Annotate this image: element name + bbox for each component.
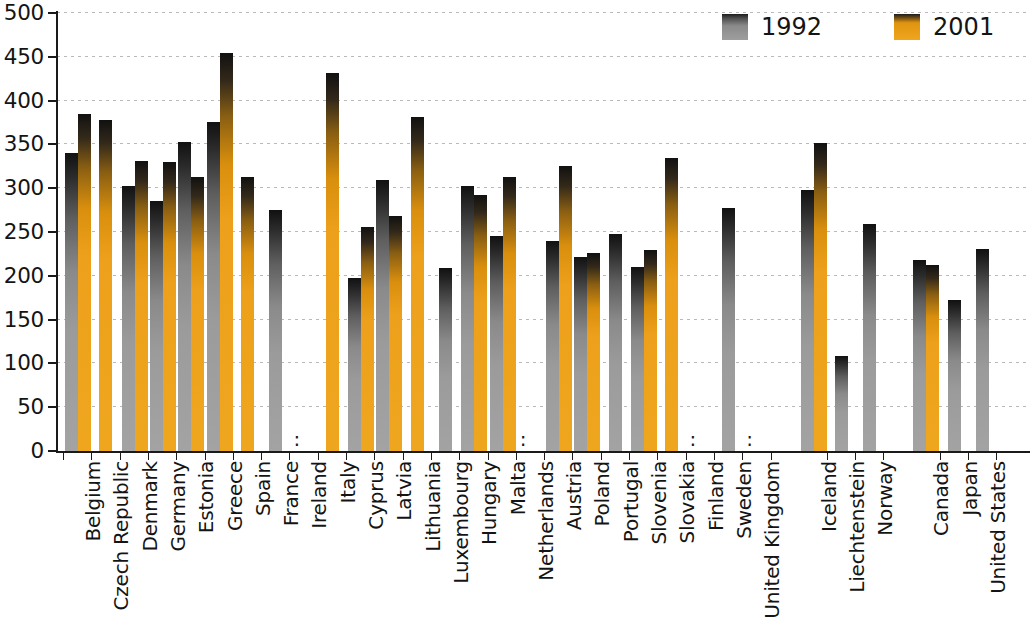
bar-1992[interactable] (722, 208, 735, 451)
bar-group (347, 13, 375, 451)
bar-1992[interactable] (546, 241, 559, 451)
bar-group (715, 13, 743, 451)
x-axis-label: Hungary (479, 461, 499, 545)
x-tick (261, 451, 262, 460)
bar-group (602, 13, 630, 451)
bar-1992[interactable] (269, 210, 282, 451)
x-axis-label: Estonia (196, 461, 216, 533)
bar-2001[interactable] (220, 53, 233, 451)
bar-1992[interactable] (948, 300, 961, 451)
bar-1992[interactable] (631, 267, 644, 451)
bar-2001[interactable] (587, 253, 600, 451)
bar-1992[interactable] (913, 260, 926, 451)
bar-group (856, 13, 884, 451)
x-tick (120, 451, 121, 460)
bar-2001[interactable] (665, 158, 678, 451)
x-axis-label: Slovenia (649, 461, 669, 545)
x-tick (403, 451, 404, 460)
x-axis-label: Ireland (309, 461, 329, 529)
y-tick-250 (48, 231, 57, 233)
x-axis-label: Liechtenstein (847, 461, 867, 593)
bar-2001[interactable] (411, 117, 424, 451)
x-axis-label: Germany (168, 461, 188, 552)
x-axis-label: Lithuania (423, 461, 443, 552)
bar-2001[interactable] (326, 73, 339, 451)
bar-2001[interactable] (814, 143, 827, 451)
bar-1992[interactable] (65, 153, 78, 451)
no-data-marker: : (520, 429, 527, 449)
plot-area: :::: (57, 13, 1030, 451)
x-axis-label: Poland (592, 461, 612, 527)
bar-1992[interactable] (574, 257, 587, 451)
legend-item-2001[interactable]: 2001 (894, 14, 994, 40)
x-tick (205, 451, 206, 460)
bar-group (262, 13, 290, 451)
bar-group (432, 13, 460, 451)
bar-group (969, 13, 997, 451)
x-tick (346, 451, 347, 460)
legend: 1992 2001 (722, 14, 994, 40)
bar-2001[interactable] (163, 162, 176, 451)
bar-1992[interactable] (439, 268, 452, 451)
legend-label-1992: 1992 (761, 15, 822, 39)
bar-group (375, 13, 403, 451)
x-axis-label: Italy (338, 461, 358, 503)
legend-swatch-1992-icon (722, 14, 748, 40)
y-tick-100 (48, 362, 57, 364)
x-tick (572, 451, 573, 460)
bar-2001[interactable] (926, 265, 939, 451)
x-tick (601, 451, 602, 460)
x-tick (742, 451, 743, 460)
bar-chart: :::: 050100150200250300350400450500 Belg… (0, 0, 1034, 630)
bar-2001[interactable] (361, 227, 374, 451)
x-axis-label: Cyprus (366, 461, 386, 530)
bar-1992[interactable] (609, 234, 622, 451)
bar-2001[interactable] (99, 120, 112, 451)
y-tick-label-100: 100 (0, 352, 44, 374)
bar-1992[interactable] (150, 201, 163, 451)
bar-2001[interactable] (644, 250, 657, 451)
bar-2001[interactable] (503, 177, 516, 451)
bar-1992[interactable] (863, 224, 876, 451)
x-tick (374, 451, 375, 460)
y-tick-label-350: 350 (0, 133, 44, 155)
y-tick-300 (48, 187, 57, 189)
bar-2001[interactable] (389, 216, 402, 451)
bar-2001[interactable] (474, 195, 487, 451)
bar-1992[interactable] (835, 356, 848, 451)
bar-1992[interactable] (490, 236, 503, 451)
bar-1992[interactable] (348, 278, 361, 451)
bar-1992[interactable] (122, 186, 135, 451)
x-tick (148, 451, 149, 460)
bar-group (319, 13, 347, 451)
bar-group (800, 13, 828, 451)
x-axis-label: Spain (253, 461, 273, 516)
bar-1992[interactable] (376, 180, 389, 451)
bar-2001[interactable] (559, 166, 572, 451)
x-tick (883, 451, 884, 460)
bar-group (177, 13, 205, 451)
bar-2001[interactable] (78, 114, 91, 451)
x-tick (289, 451, 290, 460)
legend-item-1992[interactable]: 1992 (722, 14, 822, 40)
bar-2001[interactable] (191, 177, 204, 451)
y-tick-350 (48, 143, 57, 145)
x-axis-label: Iceland (819, 461, 839, 532)
y-tick-label-400: 400 (0, 90, 44, 112)
y-tick-200 (48, 275, 57, 277)
bar-1992[interactable] (178, 142, 191, 451)
x-tick (855, 451, 856, 460)
bar-2001[interactable] (135, 161, 148, 451)
x-axis-label: Portugal (621, 461, 641, 542)
bar-1992[interactable] (461, 186, 474, 451)
bar-group: : (290, 13, 318, 451)
bar-2001[interactable] (241, 177, 254, 451)
bar-group (828, 13, 856, 451)
x-axis-label: Canada (931, 461, 951, 536)
bar-1992[interactable] (801, 190, 814, 451)
x-tick (686, 451, 687, 460)
bar-1992[interactable] (207, 122, 220, 451)
y-tick-label-500: 500 (0, 2, 44, 24)
bar-1992[interactable] (976, 249, 989, 451)
x-tick (318, 451, 319, 460)
